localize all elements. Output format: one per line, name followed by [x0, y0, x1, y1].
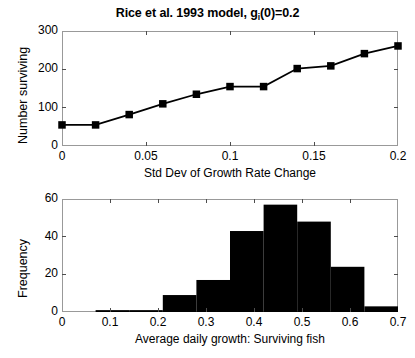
histogram-bar	[196, 280, 230, 312]
histogram-bars-layer	[0, 0, 415, 358]
x-tickmark	[350, 308, 351, 312]
x-tickmark	[146, 31, 147, 35]
y-tickmark	[62, 69, 66, 70]
x-tickmark	[254, 308, 255, 312]
x-tickmark	[206, 199, 207, 203]
x-tickmark	[110, 199, 111, 203]
x-tickmark	[254, 199, 255, 203]
x-tick-label: 0.05	[116, 149, 176, 163]
x-tickmark	[230, 142, 231, 146]
histogram-bar	[364, 306, 398, 312]
histogram-bar	[297, 222, 331, 312]
y-tickmark	[62, 274, 66, 275]
x-tickmark	[302, 199, 303, 203]
x-tick-label: 0.1	[200, 149, 260, 163]
y-tickmark	[394, 69, 398, 70]
y-tickmark	[62, 236, 66, 237]
x-tickmark	[350, 199, 351, 203]
y-tickmark	[394, 107, 398, 108]
x-tickmark	[158, 199, 159, 203]
y-tick-label: 40	[18, 229, 58, 243]
y-tick-label: 300	[18, 23, 58, 37]
x-tick-label: 0.7	[368, 315, 415, 329]
x-tickmark	[206, 308, 207, 312]
histogram-bar	[230, 231, 264, 312]
x-tickmark	[302, 308, 303, 312]
histogram-bar	[331, 267, 365, 312]
x-tick-label: 0.15	[284, 149, 344, 163]
histogram-bar	[264, 205, 298, 312]
x-tickmark	[314, 31, 315, 35]
y-tick-label: 0	[18, 138, 58, 152]
x-tickmark	[158, 308, 159, 312]
y-tick-label: 200	[18, 61, 58, 75]
y-tickmark	[394, 274, 398, 275]
x-tickmark	[314, 142, 315, 146]
y-tick-label: 20	[18, 266, 58, 280]
y-tickmark	[62, 107, 66, 108]
y-tick-label: 60	[18, 191, 58, 205]
histogram-bar	[163, 295, 197, 312]
x-tickmark	[110, 308, 111, 312]
histogram-bar	[96, 310, 130, 312]
y-tick-label: 100	[18, 100, 58, 114]
y-tick-label: 0	[18, 304, 58, 318]
y-tickmark	[394, 236, 398, 237]
x-tickmark	[146, 142, 147, 146]
figure-canvas: Rice et al. 1993 model, gi(0)=0.2 Number…	[0, 0, 415, 358]
x-tick-label: 0.2	[368, 149, 415, 163]
x-tickmark	[230, 31, 231, 35]
